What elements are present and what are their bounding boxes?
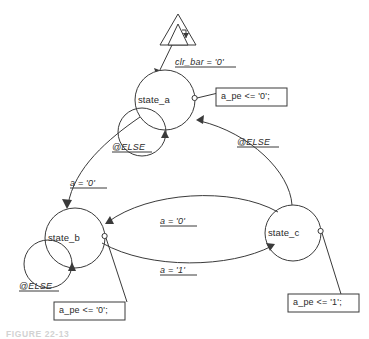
state-label-state_c: state_c xyxy=(268,228,299,238)
leader-line-action-b xyxy=(106,238,127,302)
state-diagram-graphics xyxy=(0,0,369,339)
transition-label-c-to-a: @ELSE xyxy=(237,138,270,147)
action-text-c: a_pe <= '1'; xyxy=(293,298,342,307)
state-label-state_b: state_b xyxy=(48,233,80,243)
transition-b-to-c[interactable] xyxy=(102,243,275,263)
transition-label-c-to-b: a = '0' xyxy=(160,217,185,226)
transition-label-a-self: @ELSE xyxy=(112,143,145,152)
transition-label-a-to-b: a = '0' xyxy=(70,179,95,188)
state-diagram-canvas: state_a state_b state_c clr_bar = '0' @E… xyxy=(0,0,369,339)
figure-caption: FIGURE 22-13 xyxy=(6,330,69,339)
transition-c-to-b[interactable] xyxy=(105,196,278,224)
action-text-a: a_pe <= '0'; xyxy=(221,92,270,101)
transition-label-reset-to-a: clr_bar = '0' xyxy=(175,58,224,67)
reset-triangle-icon[interactable] xyxy=(160,14,196,45)
leader-line-action-a xyxy=(197,93,218,98)
transition-a-to-b[interactable] xyxy=(62,117,140,209)
transition-label-b-to-c: a = '1' xyxy=(160,266,185,275)
action-text-b: a_pe <= '0'; xyxy=(59,306,108,315)
transition-label-b-self: @ELSE xyxy=(19,282,52,291)
state-label-state_a: state_a xyxy=(138,95,170,105)
leader-line-action-c xyxy=(322,233,341,294)
transition-c-to-a[interactable] xyxy=(196,115,292,205)
